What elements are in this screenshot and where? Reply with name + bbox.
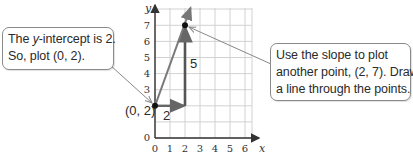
run-label: 2 [163,108,170,123]
y-tick: 7 [144,20,150,31]
x-tick: 5 [227,143,233,154]
y-tick: 3 [144,84,150,95]
x-tick: 2 [182,143,188,154]
y-tick: 5 [144,52,150,63]
x-axis-label: x [259,142,266,155]
point-2-7 [182,22,188,28]
y-tick: 0 [144,132,150,143]
callout-right-line2: another point, (2, 7). Draw [276,64,405,81]
x-tick-labels: 0 1 2 3 4 5 6 [152,143,248,154]
y-axis-label: y [144,2,152,15]
x-tick: 1 [167,143,173,154]
y-intercept-callout: The y-intercept is 2. So, plot (0, 2). [2,27,114,70]
x-tick: 3 [197,143,203,154]
point-label-0-2: (0, 2) [125,103,155,118]
callout-left-line1: The y-intercept is 2. [8,31,108,48]
callout-right-line1: Use the slope to plot [276,47,405,64]
rise-label: 5 [190,56,197,71]
callout-left-line2: So, plot (0, 2). [8,48,108,65]
y-tick: 6 [144,36,150,47]
y-tick-labels: 0 3 4 5 6 7 [144,20,150,143]
x-tick: 4 [212,143,218,154]
x-tick: 0 [152,143,158,154]
slope-callout: Use the slope to plot another point, (2,… [270,43,411,101]
callout-right-line3: a line through the points. [276,81,405,98]
x-tick: 6 [242,143,248,154]
y-tick: 4 [144,68,150,79]
